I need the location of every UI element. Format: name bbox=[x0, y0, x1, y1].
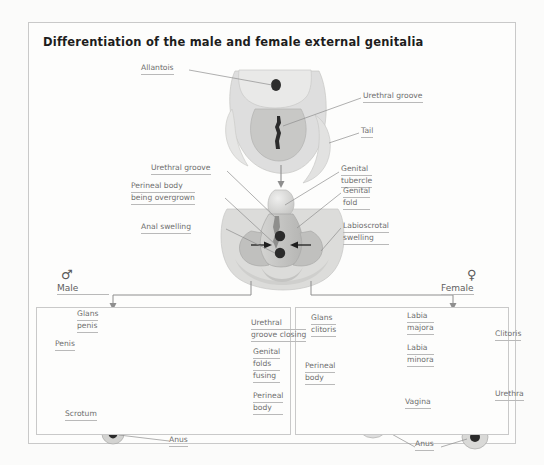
label-anus-male: Anus bbox=[169, 435, 188, 447]
indifferent-embryo-figure bbox=[226, 70, 331, 183]
label-clitoris: Clitoris bbox=[495, 329, 521, 341]
male-heading: Male bbox=[57, 283, 109, 295]
label-urethral-groove-mid: Urethral groove bbox=[151, 163, 211, 175]
label-perineal-body-male: Perineal body bbox=[253, 391, 283, 415]
label-glans-clitoris: Glans clitoris bbox=[311, 313, 336, 337]
male-symbol-icon: ♂ bbox=[61, 267, 73, 282]
label-penis: Penis bbox=[55, 339, 75, 351]
label-genital-fold: Genital fold bbox=[343, 186, 370, 210]
female-symbol-icon: ♀ bbox=[467, 267, 477, 282]
diagram-frame: Differentiation of the male and female e… bbox=[28, 22, 516, 444]
leader-anus-male bbox=[119, 435, 169, 441]
label-genital-tubercle: Genital tubercle bbox=[341, 164, 372, 188]
female-heading: Female bbox=[441, 283, 474, 295]
label-labia-majora: Labia majora bbox=[407, 311, 434, 335]
label-anus-female: Anus bbox=[415, 439, 434, 451]
label-urethral-groove-closing: Urethral groove closing bbox=[251, 318, 306, 342]
label-scrotum: Scrotum bbox=[65, 409, 97, 421]
label-allantois: Allantois bbox=[141, 63, 174, 75]
label-anal-swelling: Anal swelling bbox=[141, 222, 191, 234]
label-genital-folds-fusing: Genital folds fusing bbox=[253, 347, 280, 383]
label-glans-penis: Glans penis bbox=[77, 309, 98, 333]
label-labia-minora: Labia minora bbox=[407, 343, 434, 367]
leader-tail bbox=[329, 133, 359, 143]
label-urethra: Urethra bbox=[495, 389, 524, 401]
label-perineal-body-female: Perineal body bbox=[305, 361, 335, 385]
label-perineal-body-overgrown: Perineal body being overgrown bbox=[131, 181, 195, 205]
leader-anus-female bbox=[441, 439, 467, 447]
label-labioscrotal-swelling: Labioscrotal swelling bbox=[343, 221, 389, 245]
label-vagina: Vagina bbox=[405, 397, 431, 409]
label-urethral-groove-top: Urethral groove bbox=[363, 91, 423, 103]
label-tail: Tail bbox=[361, 126, 373, 138]
